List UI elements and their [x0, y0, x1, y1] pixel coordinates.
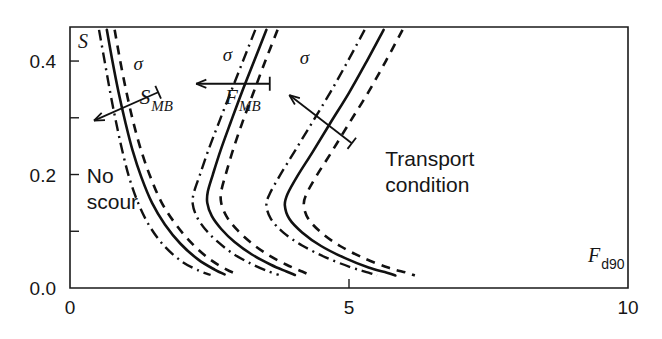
y-axis-tick-labels: 0.00.20.4 [30, 51, 57, 299]
transport-condition-label-line2: condition [385, 173, 469, 196]
s-mb-label-subscript: MB [150, 98, 173, 114]
y-axis-label: S [78, 30, 88, 52]
y-axis-ticks [70, 61, 79, 231]
curve-s-mb-dashdot [99, 30, 211, 275]
y-tick-label-2: 0.2 [30, 165, 56, 186]
s-mb-label-main: S [140, 85, 151, 109]
f-mb-label-main: F [224, 85, 238, 109]
axis-variable-names: S Fd90 [78, 30, 625, 272]
f-mb-label-subscript: MB [238, 98, 261, 114]
plot-frame [70, 27, 628, 288]
y-tick-label-4: 0.4 [30, 51, 57, 72]
curve-f-mb-dashed [221, 30, 310, 275]
x-tick-label-1: 5 [344, 297, 355, 318]
y-tick-label-0: 0.0 [30, 278, 56, 299]
axis-frame [70, 27, 628, 288]
sigma-symbol-label: σ [223, 44, 233, 65]
curve-f-mb-solid [207, 30, 295, 275]
x-axis-tick-labels: 0510 [65, 297, 639, 318]
curve-f-mb-dashdot [193, 30, 279, 275]
x-tick-label-2: 10 [617, 297, 638, 318]
region-labels: NoscourTransportcondition [87, 147, 475, 213]
x-tick-label-0: 0 [65, 297, 76, 318]
curve-transport-dashdot [266, 30, 376, 276]
sigma-arrow-tail-tick [348, 138, 357, 149]
x-axis-label-main: F [587, 244, 601, 266]
figure-root: 0.00.20.4 0510 σσσ SMBFMB NoscourTranspo… [0, 0, 662, 339]
scour-diagram-svg: 0.00.20.4 0510 σσσ SMBFMB NoscourTranspo… [0, 0, 662, 339]
no-scour-label: Noscour [87, 164, 138, 213]
data-curves [99, 30, 415, 276]
sigma-symbol-label: σ [300, 47, 310, 68]
no-scour-label-line2: scour [87, 190, 138, 213]
transport-condition-label: Transportcondition [385, 147, 474, 196]
no-scour-label-line1: No [87, 164, 114, 187]
x-axis-label: Fd90 [587, 244, 625, 272]
sigma-symbol-label: σ [133, 53, 143, 74]
x-axis-label-subscript: d90 [601, 256, 625, 272]
transport-condition-label-line1: Transport [385, 147, 474, 170]
